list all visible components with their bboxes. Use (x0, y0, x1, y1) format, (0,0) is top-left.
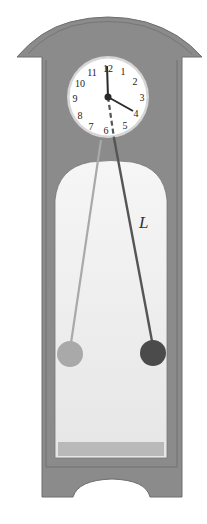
numeral-2: 2 (133, 76, 138, 87)
window-floor (58, 442, 164, 456)
numeral-10: 10 (75, 78, 85, 89)
clock-center-hub (105, 94, 112, 101)
numeral-1: 1 (121, 66, 126, 77)
pendulum-bob-left (57, 341, 83, 367)
pendulum-bob-right (140, 340, 166, 366)
pendulum-window (55, 161, 167, 459)
numeral-3: 3 (140, 92, 145, 103)
numeral-8: 8 (78, 110, 83, 121)
numeral-5: 5 (123, 120, 128, 131)
numeral-7: 7 (89, 121, 94, 132)
numeral-4: 4 (134, 108, 139, 119)
numeral-9: 9 (73, 93, 78, 104)
numeral-11: 11 (87, 67, 97, 78)
length-label: L (138, 213, 148, 232)
minute-hand (107, 66, 108, 97)
grandfather-clock-diagram: 12 1 2 3 4 5 6 7 8 9 10 11 L (0, 0, 207, 524)
numeral-6: 6 (104, 125, 109, 136)
